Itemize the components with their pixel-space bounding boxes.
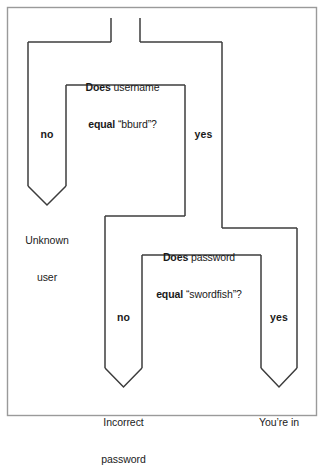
- branch-label-password-no: no: [105, 311, 142, 323]
- arrowhead-password-no: [105, 368, 142, 387]
- terminal-incorrect-password-line1: Incorrect: [83, 416, 164, 428]
- decision-password-label: Does password equal “swordfish”?: [133, 226, 265, 325]
- decision-password-keyword-1: Does: [163, 251, 188, 263]
- decision-password-line2: equal “swordfish”?: [133, 288, 265, 300]
- decision-password-rest-2: “swordfish”?: [183, 288, 242, 300]
- branch-label-password-yes: yes: [261, 311, 297, 323]
- terminal-incorrect-password: Incorrect password: [83, 391, 164, 469]
- decision-username-keyword-1: Does: [86, 81, 111, 93]
- decision-password-line1: Does password: [133, 251, 265, 263]
- decision-username-line2: equal “bburd”?: [57, 118, 188, 130]
- decision-username-keyword-2: equal: [88, 118, 115, 130]
- terminal-youre-in-line1: You’re in: [239, 416, 319, 428]
- decision-username-rest-2: “bburd”?: [115, 118, 157, 130]
- terminal-unknown-user: Unknown user: [7, 209, 87, 308]
- branch-label-username-no: no: [28, 128, 66, 140]
- decision-username-line1: Does username: [57, 81, 188, 93]
- terminal-unknown-user-line2: user: [7, 271, 87, 283]
- decision-password-keyword-2: equal: [156, 288, 183, 300]
- terminal-youre-in: You’re in: [239, 391, 319, 453]
- branch-label-username-yes: yes: [185, 128, 222, 140]
- arrowhead-password-yes: [261, 368, 297, 387]
- decision-username-rest-1: username: [111, 81, 160, 93]
- terminal-unknown-user-line1: Unknown: [7, 234, 87, 246]
- arrowhead-username-no: [28, 186, 66, 205]
- decision-username-label: Does username equal “bburd”?: [57, 56, 188, 155]
- terminal-incorrect-password-line2: password: [83, 453, 164, 465]
- decision-password-rest-1: password: [188, 251, 235, 263]
